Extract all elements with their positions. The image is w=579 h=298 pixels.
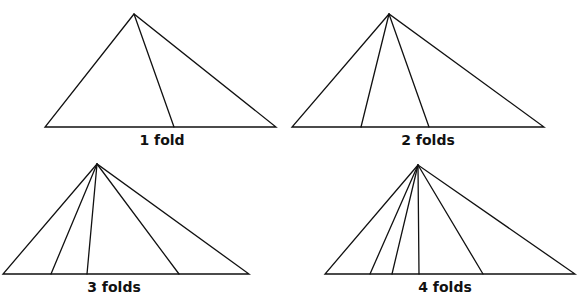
fold-line bbox=[134, 14, 174, 127]
triangle-panel-2 bbox=[292, 14, 544, 127]
panel-label-1-fold: 1 fold bbox=[139, 132, 184, 148]
triangle-outline bbox=[3, 164, 249, 274]
fold-line bbox=[87, 164, 97, 274]
panel-label-2-folds: 2 folds bbox=[401, 132, 454, 148]
triangle-panel-3 bbox=[3, 164, 249, 274]
triangle-outline bbox=[292, 14, 544, 127]
fold-line bbox=[97, 164, 179, 274]
panel-label-4-folds: 4 folds bbox=[418, 279, 471, 295]
fold-line bbox=[418, 165, 419, 274]
fold-line bbox=[392, 165, 418, 274]
fold-line bbox=[418, 165, 483, 274]
triangle-outline bbox=[45, 14, 276, 127]
panel-label-3-folds: 3 folds bbox=[87, 279, 140, 295]
fold-line bbox=[370, 165, 418, 274]
triangle-folds-diagram bbox=[0, 0, 579, 298]
fold-line bbox=[51, 164, 97, 274]
fold-line bbox=[389, 14, 429, 127]
triangle-panel-1 bbox=[45, 14, 276, 127]
triangle-panel-4 bbox=[325, 165, 575, 274]
